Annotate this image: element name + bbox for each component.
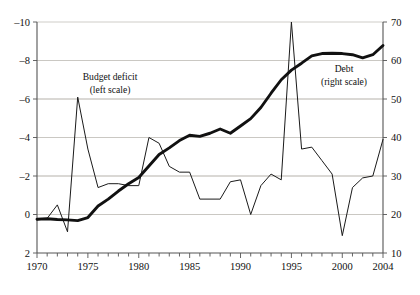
budget-deficit-label-line2: (left scale) bbox=[90, 84, 131, 96]
left-axis-tick-label-2: –6 bbox=[19, 94, 31, 105]
right-axis-tick-label-6: 70 bbox=[391, 17, 402, 28]
debt-label-line2: (right scale) bbox=[321, 76, 367, 88]
x-axis-tick-label-1995: 1995 bbox=[281, 261, 302, 272]
left-axis-tick-label-3: –4 bbox=[19, 132, 31, 143]
left-axis-tick-label-4: –2 bbox=[19, 171, 31, 182]
left-axis-tick-label-0: –10 bbox=[13, 17, 30, 28]
x-axis-tick-label-1990: 1990 bbox=[230, 261, 251, 272]
left-axis-tick-label-5: 0 bbox=[25, 209, 30, 220]
right-axis-tick-label-4: 50 bbox=[391, 94, 402, 105]
right-axis-tick-label-1: 20 bbox=[391, 209, 402, 220]
x-axis-tick-label-1985: 1985 bbox=[179, 261, 200, 272]
right-axis-tick-label-2: 30 bbox=[391, 171, 402, 182]
left-axis-tick-label-1: –8 bbox=[19, 55, 31, 66]
right-axis-tick-label-3: 40 bbox=[391, 132, 402, 143]
chart-figure: 19701975198019851990199520002004–10–8–6–… bbox=[0, 0, 420, 295]
right-axis-tick-label-0: 10 bbox=[391, 248, 402, 259]
right-axis-tick-label-5: 60 bbox=[391, 55, 402, 66]
debt-label-line1: Debt bbox=[335, 63, 354, 74]
x-axis-tick-label-1975: 1975 bbox=[77, 261, 98, 272]
x-axis-tick-label-1980: 1980 bbox=[128, 261, 149, 272]
left-axis-tick-label-6: 2 bbox=[25, 248, 30, 259]
chart-container: 19701975198019851990199520002004–10–8–6–… bbox=[0, 0, 420, 295]
x-axis-tick-label-1970: 1970 bbox=[27, 261, 48, 272]
x-axis-tick-label-2004: 2004 bbox=[373, 261, 395, 272]
x-axis-tick-label-2000: 2000 bbox=[332, 261, 353, 272]
budget-deficit-label-line1: Budget deficit bbox=[83, 71, 138, 82]
